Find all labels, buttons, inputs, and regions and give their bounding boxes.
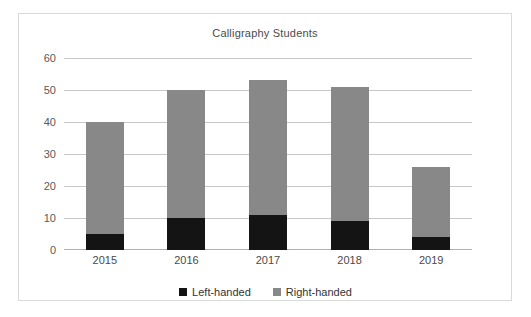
y-axis-tick-label: 30 xyxy=(10,148,56,160)
y-axis-tick-labels: 0102030405060 xyxy=(10,58,56,250)
x-axis-tick-label: 2016 xyxy=(146,254,226,266)
x-axis-tick-label: 2018 xyxy=(310,254,390,266)
bar-group[interactable] xyxy=(167,90,205,250)
chart-legend: Left-handedRight-handed xyxy=(0,286,531,298)
bar-segment[interactable] xyxy=(86,234,124,250)
legend-label: Left-handed xyxy=(192,286,251,298)
legend-item[interactable]: Right-handed xyxy=(273,286,352,298)
legend-swatch-icon xyxy=(273,288,281,296)
y-axis-tick-label: 10 xyxy=(10,212,56,224)
chart-title: Calligraphy Students xyxy=(19,27,511,39)
bar-group[interactable] xyxy=(331,87,369,250)
bar-segment[interactable] xyxy=(331,221,369,250)
bar-segment[interactable] xyxy=(249,80,287,214)
plot-area xyxy=(64,58,472,250)
x-axis-tick-label: 2019 xyxy=(391,254,471,266)
bar-segment[interactable] xyxy=(86,122,124,234)
bar-segment[interactable] xyxy=(167,90,205,218)
bar-group[interactable] xyxy=(86,122,124,250)
legend-label: Right-handed xyxy=(286,286,352,298)
bar-segment[interactable] xyxy=(249,215,287,250)
x-axis-tick-label: 2015 xyxy=(65,254,145,266)
x-axis-tick-label: 2017 xyxy=(228,254,308,266)
legend-swatch-icon xyxy=(179,288,187,296)
bar-group[interactable] xyxy=(249,80,287,250)
y-axis-tick-label: 40 xyxy=(10,116,56,128)
y-axis-tick-label: 0 xyxy=(10,244,56,256)
y-axis-tick-label: 50 xyxy=(10,84,56,96)
bar-group[interactable] xyxy=(412,167,450,250)
bar-segment[interactable] xyxy=(331,87,369,221)
y-axis-tick-label: 20 xyxy=(10,180,56,192)
bar-segment[interactable] xyxy=(412,167,450,237)
y-axis-tick-label: 60 xyxy=(10,52,56,64)
legend-item[interactable]: Left-handed xyxy=(179,286,251,298)
bar-segment[interactable] xyxy=(412,237,450,250)
bar-segment[interactable] xyxy=(167,218,205,250)
gridline xyxy=(64,58,472,59)
